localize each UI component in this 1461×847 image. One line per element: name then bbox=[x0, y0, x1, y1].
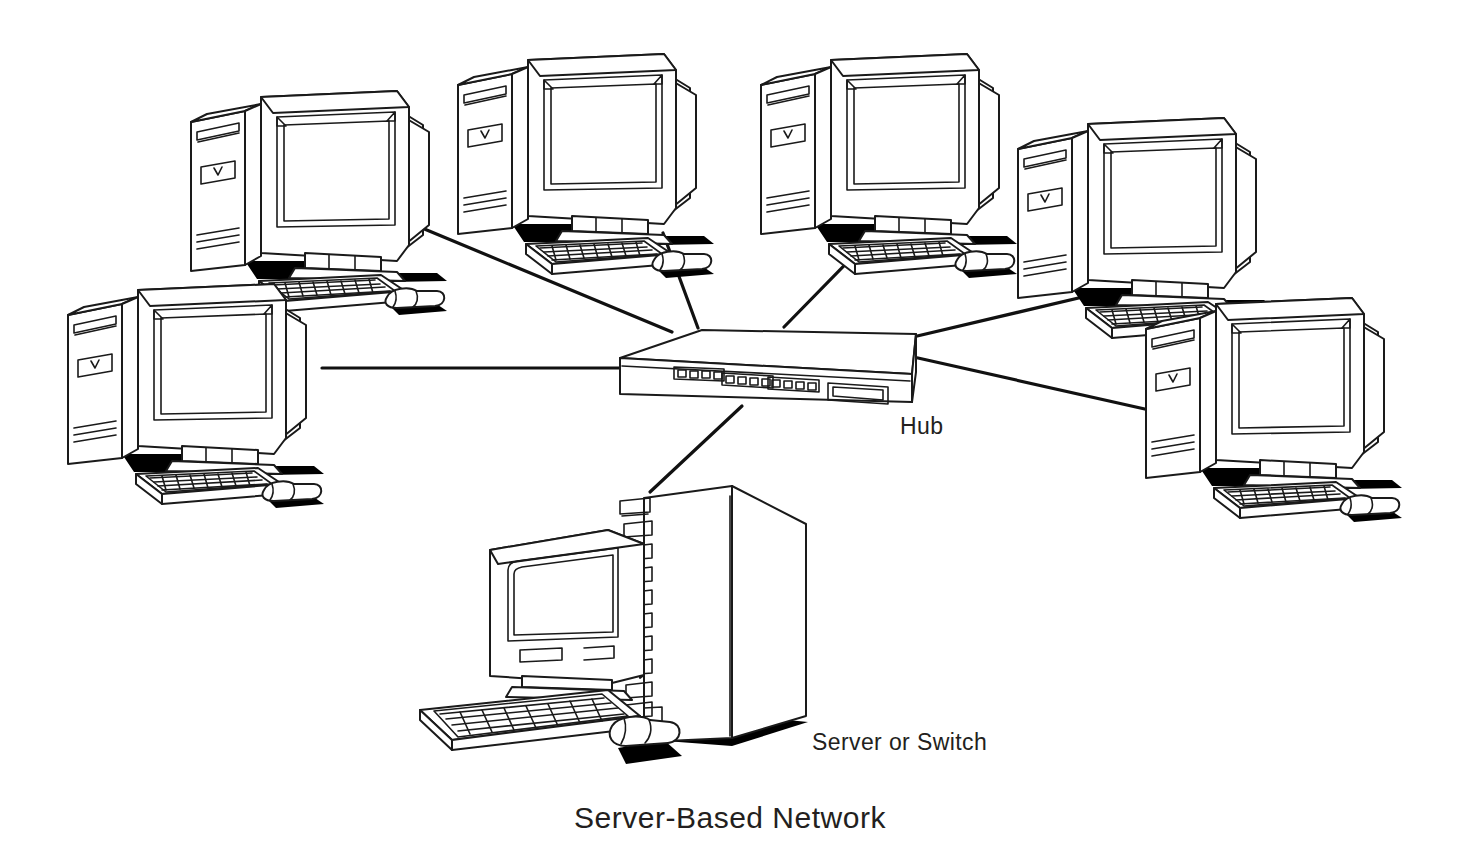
workstation-node-6[interactable] bbox=[1146, 298, 1402, 522]
link-server-to-hub bbox=[650, 406, 742, 492]
link-workstation-4-to-hub bbox=[913, 292, 1104, 337]
workstation-node-1[interactable] bbox=[191, 91, 447, 315]
workstation-node-2[interactable] bbox=[458, 54, 714, 278]
workstation-node-5[interactable] bbox=[68, 284, 324, 508]
server-or-switch-label: Server or Switch bbox=[812, 729, 987, 755]
network-diagram: Hub Server or Switch Server-Based Networ… bbox=[0, 0, 1461, 847]
link-workstation-6-to-hub bbox=[918, 358, 1176, 416]
hub-node[interactable] bbox=[620, 330, 916, 404]
diagram-title: Server-Based Network bbox=[574, 801, 886, 834]
workstation-node-3[interactable] bbox=[761, 54, 1017, 278]
hub-label: Hub bbox=[900, 413, 943, 439]
link-workstation-2-to-hub bbox=[663, 233, 698, 328]
diagram-canvas: Hub Server or Switch Server-Based Networ… bbox=[0, 0, 1461, 847]
server-node[interactable] bbox=[420, 486, 808, 764]
